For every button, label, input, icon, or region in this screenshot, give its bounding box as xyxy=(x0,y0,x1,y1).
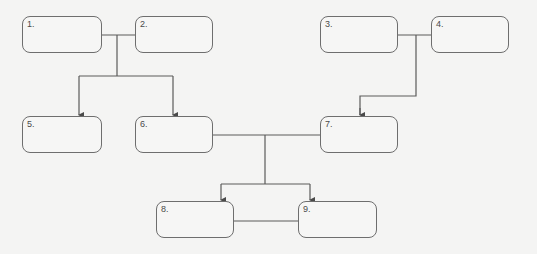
node-5[interactable]: 5. xyxy=(22,116,102,153)
node-8[interactable]: 8. xyxy=(156,201,234,238)
node-6[interactable]: 6. xyxy=(135,116,213,153)
node-1[interactable]: 1. xyxy=(22,16,102,53)
node-9[interactable]: 9. xyxy=(298,201,377,238)
family-tree-diagram: 1. 2. 3. 4. 5. 6. 7. 8. 9. xyxy=(0,0,537,254)
node-label: 6. xyxy=(140,119,148,129)
node-label: 3. xyxy=(325,19,333,29)
node-label: 9. xyxy=(303,204,311,214)
node-label: 4. xyxy=(436,19,444,29)
node-7[interactable]: 7. xyxy=(320,116,398,153)
node-label: 1. xyxy=(27,19,35,29)
node-2[interactable]: 2. xyxy=(135,16,213,53)
node-label: 8. xyxy=(161,204,169,214)
node-4[interactable]: 4. xyxy=(431,16,509,53)
node-label: 7. xyxy=(325,119,333,129)
node-3[interactable]: 3. xyxy=(320,16,398,53)
node-label: 2. xyxy=(140,19,148,29)
node-label: 5. xyxy=(27,119,35,129)
